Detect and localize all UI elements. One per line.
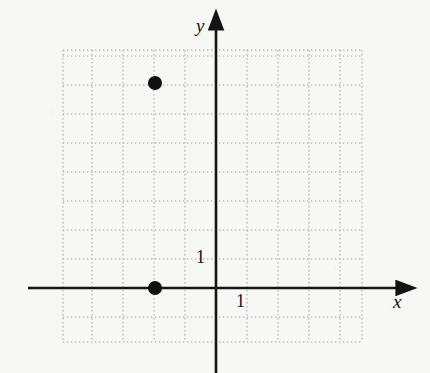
x-axis-label: x	[393, 292, 401, 311]
coordinate-plane-figure: y x 1 1	[0, 0, 430, 373]
grid-lines	[63, 50, 362, 342]
data-point	[148, 281, 162, 295]
data-points	[148, 76, 162, 295]
plot-canvas	[0, 0, 430, 373]
y-axis-label: y	[196, 16, 204, 35]
data-point	[148, 76, 162, 90]
x-axis-tick-label-1: 1	[236, 292, 245, 310]
y-axis-tick-label-1: 1	[196, 248, 205, 266]
